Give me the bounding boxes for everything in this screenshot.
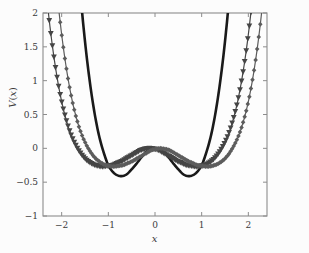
y-tick-label: 2 (32, 8, 38, 18)
y-axis-label: V(x) (7, 68, 18, 128)
y-axis-label-text: V (7, 101, 18, 108)
x-tick-label: −2 (55, 220, 68, 230)
marker-diamond (260, 8, 265, 13)
marker-diamond (56, 6, 61, 11)
x-tick-label: 0 (152, 220, 158, 230)
x-tick-label: −1 (102, 220, 115, 230)
y-tick-label: 1 (32, 76, 38, 86)
x-tick-label: 2 (245, 220, 251, 230)
y-tick-label: 0 (32, 143, 38, 153)
x-tick-label: 1 (199, 220, 205, 230)
figure-double-well-potential: −2−1012−1−0.500.511.52 V(x) x (0, 0, 309, 253)
y-tick-label: −0.5 (16, 177, 38, 187)
y-tick-label: 1.5 (24, 42, 39, 52)
chart-canvas: −2−1012−1−0.500.511.52 (0, 0, 309, 253)
y-tick-label: 0.5 (24, 110, 39, 120)
x-axis-label: x (0, 233, 309, 244)
marker-triangle-down (45, 4, 51, 10)
x-axis-label-text: x (152, 233, 158, 244)
y-tick-label: −1 (25, 211, 38, 221)
